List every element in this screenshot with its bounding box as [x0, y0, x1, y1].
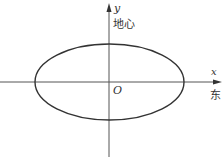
x-axis-label: x: [211, 66, 217, 77]
y-direction-label: 地心: [113, 15, 135, 31]
x-axis-arrow-icon: [213, 80, 222, 85]
x-direction-label: 东: [210, 86, 221, 102]
y-axis-arrow-icon: [107, 3, 112, 12]
y-axis-label: y: [114, 2, 120, 15]
diagram-canvas: [0, 0, 223, 165]
origin-label: O: [113, 84, 122, 97]
